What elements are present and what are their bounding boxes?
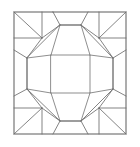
mesh-diagram-svg [0, 0, 140, 147]
outer-frame [14, 12, 126, 134]
mesh-figure: Square mesh diagram with a central squar… [0, 0, 140, 147]
